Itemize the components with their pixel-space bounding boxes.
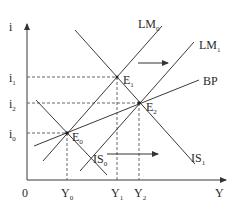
is1-curve <box>75 30 195 164</box>
tick-i1: i1 <box>9 71 16 87</box>
lm0-curve <box>43 26 162 161</box>
is0-label: IS0 <box>93 152 108 168</box>
bp-curve <box>34 80 199 146</box>
is1-label: IS1 <box>191 151 206 167</box>
tick-i0: i0 <box>9 127 16 143</box>
tick-i2: i2 <box>9 97 16 113</box>
lm1-label: LM1 <box>199 38 221 54</box>
tick-y0: Y0 <box>61 186 74 202</box>
bp-label: BP <box>203 74 218 88</box>
tick-y1: Y1 <box>111 186 124 202</box>
e2-label: E2 <box>146 100 157 116</box>
tick-y2: Y2 <box>134 186 147 202</box>
lm0-label: LM0 <box>138 17 160 33</box>
e0-point <box>65 131 69 135</box>
e2-point <box>137 101 141 105</box>
e1-label: E1 <box>123 73 134 89</box>
x-axis-label: Y <box>215 186 224 200</box>
y-axis-label: i <box>9 20 13 34</box>
origin-label: 0 <box>22 186 28 200</box>
e1-point <box>116 76 119 79</box>
is-lm-bp-diagram: i Y 0 i1 i2 i0 Y0 Y1 Y2 LM0 LM1 BP IS0 I… <box>0 0 238 209</box>
e0-label: E0 <box>72 130 83 146</box>
